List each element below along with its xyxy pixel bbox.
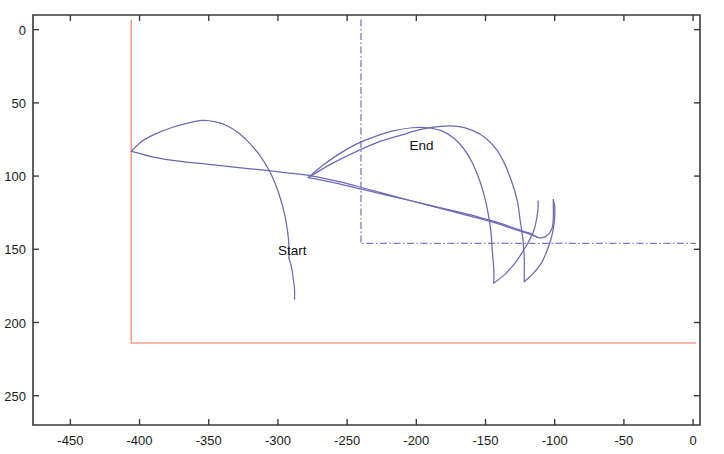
series-trajectory-second-arc — [308, 127, 494, 283]
y-tick-label: 100 — [4, 169, 26, 184]
series-trajectory-inner-link — [308, 178, 553, 238]
axis-frame — [33, 15, 700, 425]
x-tick-label: -100 — [542, 433, 568, 448]
series-trajectory-upper-arc — [131, 120, 289, 258]
series-trajectory-near-flat-long — [131, 151, 538, 237]
y-tick-label: 50 — [12, 96, 26, 111]
x-tick-label: -350 — [196, 433, 222, 448]
x-tick-label: -400 — [127, 433, 153, 448]
x-tick-label: -150 — [472, 433, 498, 448]
annotation-start: Start — [278, 243, 307, 258]
x-tick-label: -250 — [334, 433, 360, 448]
series-trajectory-lower-tail-to-start — [289, 258, 295, 299]
y-tick-label: 200 — [4, 316, 26, 331]
y-tick-label: 0 — [19, 23, 26, 38]
outer-boundary-red — [131, 19, 696, 343]
x-tick-label: -50 — [614, 433, 633, 448]
x-tick-label: -450 — [57, 433, 83, 448]
series-trajectory-return-lower-left — [494, 201, 538, 283]
trajectory-plot: 050100150200250-450-400-350-300-250-200-… — [0, 0, 724, 454]
annotation-end: End — [409, 138, 433, 153]
y-tick-label: 250 — [4, 389, 26, 404]
x-tick-label: 0 — [689, 433, 696, 448]
y-tick-label: 150 — [4, 242, 26, 257]
x-tick-label: -200 — [403, 433, 429, 448]
x-tick-label: -300 — [265, 433, 291, 448]
chart-figure: 050100150200250-450-400-350-300-250-200-… — [0, 0, 724, 454]
